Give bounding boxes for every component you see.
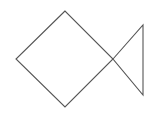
triangle-shape (113, 25, 143, 95)
geometric-figure (0, 0, 157, 113)
diamond-shape (16, 11, 113, 107)
figure-canvas (0, 0, 157, 113)
